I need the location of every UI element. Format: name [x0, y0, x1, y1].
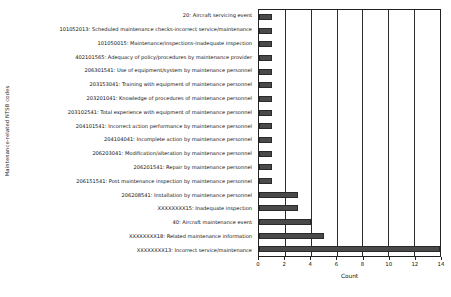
- bar: [259, 14, 272, 20]
- x-tick-label: 14: [438, 261, 445, 267]
- bar-row: [259, 201, 440, 215]
- bar-row: [259, 147, 440, 161]
- bar: [259, 178, 272, 184]
- x-tick-label: 4: [309, 261, 312, 267]
- bar-row: [259, 174, 440, 188]
- y-axis-tick-label: XXXXXXXX18: Related maintenance informat…: [12, 230, 255, 244]
- y-axis-tick-label: 206151541: Post maintenance inspection b…: [12, 174, 255, 188]
- bar: [259, 110, 272, 116]
- y-axis-tick-label: 203102541: Total experience with equipme…: [12, 105, 255, 119]
- bar: [259, 55, 272, 61]
- bar-chart-figure: Maintenance-related NTSB codes 20: Aircr…: [0, 0, 451, 297]
- x-axis-ticks: 02468101214: [258, 257, 441, 271]
- x-tick-mark: [310, 257, 311, 260]
- y-axis-tick-label: 203201041: Knowledge of procedures of ma…: [12, 92, 255, 106]
- bar-row: [259, 92, 440, 106]
- bar: [259, 233, 324, 239]
- x-tick-label: 12: [411, 261, 418, 267]
- x-tick-label: 2: [282, 261, 285, 267]
- x-tick-label: 10: [385, 261, 392, 267]
- bar-row: [259, 160, 440, 174]
- bar: [259, 246, 440, 252]
- y-axis-title: Maintenance-related NTSB codes: [4, 86, 10, 177]
- y-axis-tick-label: 40: Aircraft maintenance event: [12, 216, 255, 230]
- bar-row: [259, 229, 440, 243]
- y-axis-tick-label: 206203041: Modification/alteration by ma…: [12, 147, 255, 161]
- y-axis-tick-label: 206201541: Repair by maintenance personn…: [12, 161, 255, 175]
- y-axis-tick-label: 101050015: Maintenance/inspections-inade…: [12, 37, 255, 51]
- y-axis-tick-label: 203153041: Training with equipment of ma…: [12, 78, 255, 92]
- bar: [259, 28, 272, 34]
- x-tick-mark: [441, 257, 442, 260]
- bar-row: [259, 119, 440, 133]
- x-tick-label: 0: [256, 261, 259, 267]
- y-axis-tick-label: 20: Aircraft servicing event: [12, 9, 255, 23]
- x-tick-mark: [258, 257, 259, 260]
- bar-row: [259, 24, 440, 38]
- bar-row: [259, 133, 440, 147]
- bar-row: [259, 78, 440, 92]
- bar: [259, 151, 272, 157]
- bar-row: [259, 10, 440, 24]
- bar-row: [259, 106, 440, 120]
- bar-row: [259, 37, 440, 51]
- y-axis-tick-label: XXXXXXXX15: Inadequate inspection: [12, 202, 255, 216]
- y-axis-tick-label: 206301541: Use of equipment/system by ma…: [12, 64, 255, 78]
- x-tick-mark: [415, 257, 416, 260]
- y-axis-tick-label: 204104041: Incomplete action by maintena…: [12, 133, 255, 147]
- bar: [259, 219, 311, 225]
- bar: [259, 123, 272, 129]
- bar-row: [259, 242, 440, 256]
- x-tick-mark: [389, 257, 390, 260]
- x-tick-label: 8: [361, 261, 364, 267]
- y-axis-tick-label: XXXXXXXX13: Incorrect service/maintenanc…: [12, 243, 255, 257]
- y-axis-tick-labels: 20: Aircraft servicing event101052013: S…: [12, 9, 255, 257]
- bar-row: [259, 65, 440, 79]
- y-axis-tick-label: 204101541: Incorrect action performance …: [12, 119, 255, 133]
- bar: [259, 82, 272, 88]
- bar-series: [259, 10, 440, 256]
- y-axis-tick-label: 206208541: Installation by maintenance p…: [12, 188, 255, 202]
- x-tick-mark: [284, 257, 285, 260]
- plot-area: [258, 9, 441, 257]
- bar-row: [259, 188, 440, 202]
- x-tick-mark: [336, 257, 337, 260]
- bar: [259, 164, 272, 170]
- y-axis-tick-label: 101052013: Scheduled maintenance checks-…: [12, 23, 255, 37]
- x-tick-label: 6: [335, 261, 338, 267]
- bar: [259, 41, 272, 47]
- bar-row: [259, 215, 440, 229]
- x-axis-title: Count: [258, 273, 441, 279]
- bar: [259, 96, 272, 102]
- bar: [259, 137, 272, 143]
- bar: [259, 192, 298, 198]
- y-axis-tick-label: 402101565: Adequacy of policy/procedures…: [12, 50, 255, 64]
- bar: [259, 69, 272, 75]
- x-tick-mark: [363, 257, 364, 260]
- bar-row: [259, 51, 440, 65]
- bar: [259, 205, 298, 211]
